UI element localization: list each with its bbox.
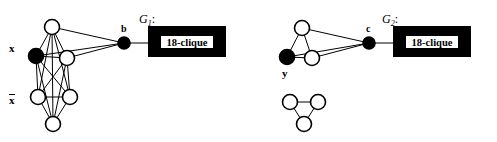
node-G2-m3 [305, 51, 320, 66]
node-label-c: c [366, 24, 370, 34]
edge-G2-m3-c [312, 43, 369, 58]
figure-root: G1: b x x 18-clique G2: c y 18-clique [0, 0, 497, 142]
node-G1-n1 [45, 20, 60, 35]
variable-label-x-bar: x [9, 94, 15, 107]
edge-G2-m2-c [287, 43, 369, 57]
variable-label-x-bar-text: x [9, 94, 15, 107]
graph-drawing-layer [0, 0, 497, 142]
clique-box-g2-label: 18-clique [405, 35, 459, 49]
graph-label-g2-letter: G [382, 12, 391, 26]
graph-label-g1-colon: : [152, 12, 155, 26]
variable-label-x: x [9, 43, 15, 54]
node-G2-m1 [295, 21, 310, 36]
edge-G2-m1-c [302, 28, 369, 43]
edge-G1-n1-b [52, 27, 124, 43]
variable-label-y: y [282, 68, 288, 79]
node-G1-n4 [31, 90, 46, 105]
clique-box-g1-label: 18-clique [160, 35, 214, 49]
node-label-b: b [121, 24, 127, 34]
node-G1-n5 [63, 90, 78, 105]
clique-box-g2: 18-clique [393, 26, 471, 57]
node-G1-n2 [29, 49, 44, 64]
graph-label-g2-colon: : [395, 12, 398, 26]
node-G1-n6 [46, 117, 61, 132]
edge-G1-n2-b [36, 43, 124, 56]
clique-box-g1: 18-clique [148, 26, 226, 57]
node-G1-b [118, 37, 130, 49]
graph-label-g1-letter: G [139, 12, 148, 26]
node-G2-c [363, 37, 375, 49]
node-isolated-triangle-p1 [283, 95, 298, 110]
node-G1-n3 [60, 51, 75, 66]
node-isolated-triangle-p3 [297, 117, 312, 132]
node-isolated-triangle-p2 [311, 95, 326, 110]
node-G2-m2 [280, 50, 295, 65]
